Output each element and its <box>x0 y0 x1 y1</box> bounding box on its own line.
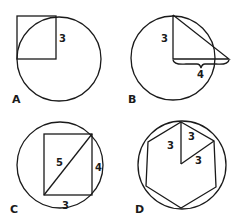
diagonal-c <box>44 134 92 195</box>
panel-d: 3 3 3 D <box>135 121 226 216</box>
label-d-radius-1: 3 <box>167 140 174 151</box>
label-c-side: 4 <box>95 162 102 173</box>
label-b-base: 4 <box>197 69 204 80</box>
panel-label-d: D <box>135 203 144 216</box>
label-d-side: 3 <box>188 131 195 142</box>
panel-a: 3 A <box>12 16 101 106</box>
label-c-base: 3 <box>62 200 69 211</box>
label-a-side: 3 <box>59 33 66 44</box>
label-b-vertical: 3 <box>161 33 168 44</box>
circle-d <box>138 121 226 209</box>
panel-label-c: C <box>10 203 18 216</box>
panel-label-a: A <box>12 93 21 106</box>
panel-label-b: B <box>128 93 136 106</box>
brace-b <box>173 60 229 68</box>
geometry-figure: 3 A 3 4 B 5 4 3 C 3 3 3 D <box>0 0 238 222</box>
triangle-b <box>173 15 229 59</box>
label-c-diagonal: 5 <box>56 157 63 168</box>
panel-c: 5 4 3 C <box>10 122 103 216</box>
label-d-radius-2: 3 <box>195 155 202 166</box>
panel-b: 3 4 B <box>128 15 229 106</box>
